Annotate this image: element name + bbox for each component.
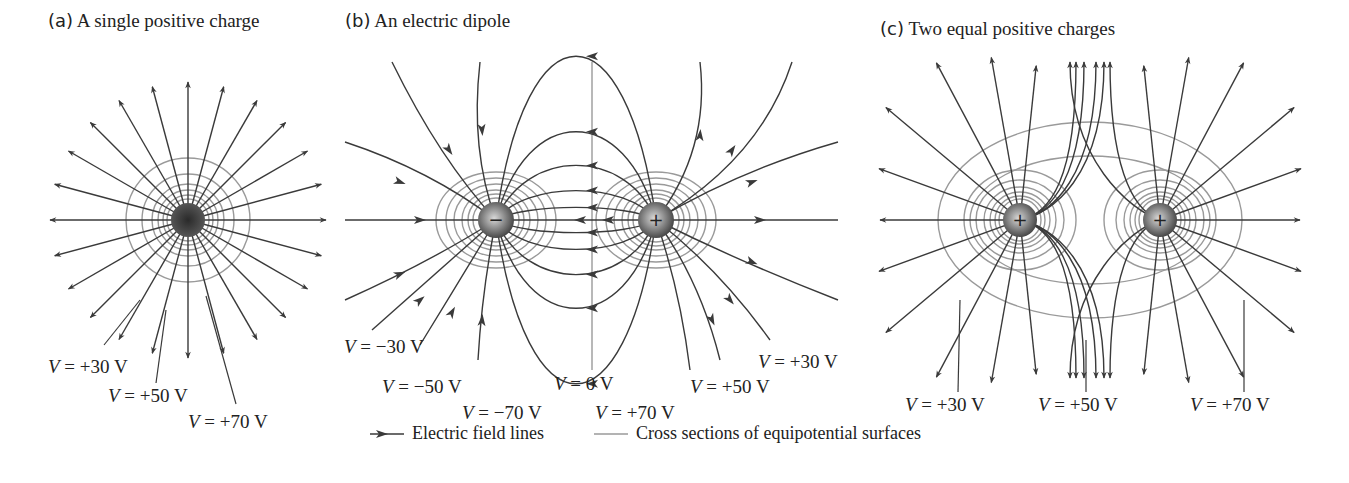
- legend-equipotential-label: Cross sections of equipotential surfaces: [636, 423, 921, 444]
- field-direction-arrow-icon: [745, 176, 759, 188]
- field-line: [477, 62, 496, 220]
- field-line: [656, 220, 838, 300]
- field-line: [879, 169, 1020, 220]
- equipotential-label-c-2: V = +70 V: [1190, 395, 1270, 414]
- field-line: [188, 220, 286, 318]
- svg-text:−: −: [488, 209, 503, 230]
- equipotential-label-c-0: V = +30 V: [905, 395, 985, 414]
- field-direction-arrow-icon: [393, 176, 407, 188]
- negative-charge-icon: −: [478, 202, 514, 238]
- equipotential-label-a-2: V = +70 V: [188, 412, 268, 431]
- field-line: [496, 207, 656, 220]
- field-line: [420, 220, 496, 345]
- equipotential-label-b-5: V = +50 V: [690, 377, 770, 396]
- field-line: [372, 220, 496, 330]
- field-line: [90, 220, 188, 318]
- field-direction-arrow-icon: [413, 293, 427, 307]
- equipotential-label-a-0: V = +30 V: [48, 357, 128, 376]
- label-leader-line: [958, 300, 960, 392]
- svg-text:+: +: [1012, 209, 1027, 230]
- equipotential-label-a-1: V = +50 V: [108, 386, 188, 405]
- field-direction-arrow-icon: [725, 143, 738, 157]
- positive-charge-icon: +: [638, 202, 674, 238]
- field-line-arrow-icon: [370, 429, 404, 439]
- field-direction-arrow-icon: [446, 305, 459, 319]
- field-line: [496, 220, 656, 384]
- field-line: [1160, 220, 1294, 333]
- panel-c-diagram: ++: [879, 58, 1301, 393]
- equipotential-label-b-3: V = −70 V: [462, 403, 542, 422]
- field-direction-arrow-icon: [393, 268, 407, 280]
- field-line: [1020, 220, 1104, 378]
- label-leader-line: [104, 300, 140, 345]
- svg-text:+: +: [1152, 209, 1167, 230]
- field-line: [879, 220, 1020, 271]
- field-line: [1160, 108, 1294, 221]
- positive-charge-icon: +: [1003, 203, 1037, 237]
- field-line: [345, 220, 496, 300]
- positive-charge-icon: [171, 203, 205, 237]
- field-line: [1160, 169, 1301, 220]
- field-line: [90, 122, 188, 220]
- legend-field-lines-label: Electric field lines: [412, 423, 544, 444]
- field-direction-arrow-icon: [477, 314, 486, 327]
- field-line: [188, 122, 286, 220]
- field-line: [886, 220, 1020, 333]
- field-line: [1020, 62, 1104, 220]
- equipotential-label-c-1: V = +50 V: [1038, 395, 1118, 414]
- equipotential-label-b-0: V = −30 V: [344, 337, 424, 356]
- positive-charge-icon: +: [1143, 203, 1177, 237]
- equipotential-label-b-1: V = −50 V: [382, 377, 462, 396]
- equipotential-line-icon: [594, 429, 628, 439]
- field-line: [345, 142, 496, 220]
- equipotential-label-b-2: V = 0 V: [554, 374, 613, 393]
- field-line: [656, 220, 690, 370]
- field-line: [886, 108, 1020, 221]
- field-direction-arrow-icon: [477, 124, 486, 137]
- equipotential-label-b-4: V = +70 V: [595, 403, 675, 422]
- equipotential-label-b-6: V = +30 V: [758, 352, 838, 371]
- field-line: [656, 62, 702, 220]
- field-line: [496, 56, 656, 220]
- field-line: [496, 220, 656, 233]
- label-leader-line: [206, 296, 236, 404]
- legend: Electric field lines Cross sections of e…: [370, 423, 921, 444]
- svg-text:+: +: [648, 209, 663, 230]
- field-line: [1160, 220, 1301, 271]
